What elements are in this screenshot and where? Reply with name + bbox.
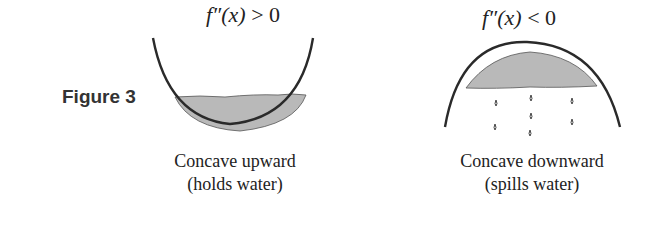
- caption-concave-down: Concave downward (spills water): [432, 150, 632, 196]
- caption-concave-up: Concave upward (holds water): [150, 150, 320, 196]
- water-drops: [494, 95, 573, 136]
- caption-title: Concave upward: [150, 150, 320, 173]
- caption-title: Concave downward: [432, 150, 632, 173]
- concave-up-diagram: [153, 38, 313, 131]
- caption-subtitle: (spills water): [432, 173, 632, 196]
- concave-down-diagram: [445, 42, 620, 136]
- caption-subtitle: (holds water): [150, 173, 320, 196]
